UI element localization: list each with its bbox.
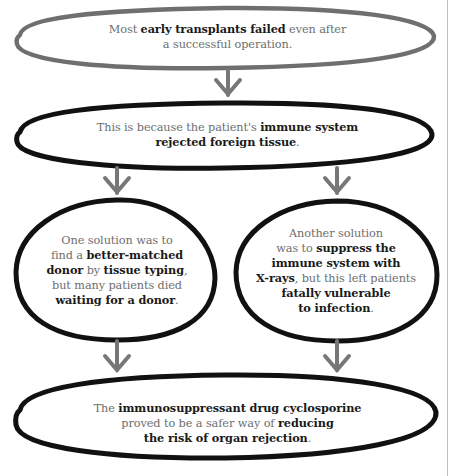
node-immune-rejection: This is because the patient's immune sys… — [40, 120, 415, 150]
text: , but this left patients — [295, 272, 416, 285]
text: . — [175, 294, 179, 307]
text: was to — [276, 242, 316, 255]
bold-text: rejected foreign tissue — [155, 135, 296, 149]
arrow-down-icon — [105, 168, 129, 193]
node-cyclosporine: The immunosuppressant drug cyclosporinep… — [40, 401, 415, 446]
node-tissue-typing: One solution was tofind a better-matched… — [22, 233, 212, 308]
text: . — [308, 432, 312, 445]
node-text-line: rejected foreign tissue. — [40, 135, 415, 150]
bold-text: early transplants failed — [141, 22, 286, 36]
bold-text: the risk of organ rejection — [144, 431, 308, 445]
node-text-line: find a better-matched — [22, 248, 212, 263]
node-text-line: One solution was to — [22, 233, 212, 248]
text: even after — [286, 23, 347, 36]
bold-text: tissue typing — [104, 263, 184, 277]
node-text-line: a successful operation. — [40, 37, 415, 52]
text: One solution was to — [61, 234, 172, 247]
text: The — [94, 402, 119, 415]
node-text-line: fatally vulnerable — [240, 286, 432, 301]
flowchart: Most early transplants failed even after… — [0, 0, 453, 476]
text: but many patients died — [52, 279, 182, 292]
bold-text: fatally vulnerable — [281, 286, 390, 300]
node-x-ray-suppression: Another solutionwas to suppress theimmun… — [240, 226, 432, 316]
page-divider — [447, 0, 448, 476]
bold-text: suppress the — [316, 241, 396, 255]
text: Most — [109, 23, 141, 36]
node-text-line: to infection. — [240, 301, 432, 316]
text: by — [83, 264, 103, 277]
node-early-transplants: Most early transplants failed even after… — [40, 22, 415, 52]
bold-text: immune system with — [272, 256, 401, 270]
bold-text: immune system — [260, 120, 358, 134]
node-text-line: Most early transplants failed even after — [40, 22, 415, 37]
bold-text: reducing — [278, 416, 334, 430]
text: This is because the patient's — [97, 121, 260, 134]
node-text-line: immune system with — [240, 256, 432, 271]
bold-text: waiting for a donor — [55, 293, 175, 307]
text: Another solution — [289, 227, 383, 240]
text: a successful operation. — [163, 38, 292, 51]
node-text-line: donor by tissue typing, — [22, 263, 212, 278]
node-text-line: but many patients died — [22, 278, 212, 293]
text: . — [296, 136, 300, 149]
text: find a — [51, 249, 87, 262]
bold-text: immunosuppressant drug cyclosporine — [118, 401, 361, 415]
bold-text: donor — [47, 263, 84, 277]
arrow-down-icon — [105, 341, 129, 370]
arrow-down-icon — [325, 168, 349, 193]
arrow-down-icon — [216, 70, 240, 95]
node-text-line: The immunosuppressant drug cyclosporine — [40, 401, 415, 416]
text: proved to be a safer way of — [121, 417, 278, 430]
bold-text: to infection — [298, 301, 370, 315]
text: , — [184, 264, 188, 277]
bold-text: X-rays — [256, 271, 295, 285]
node-text-line: proved to be a safer way of reducing — [40, 416, 415, 431]
node-text-line: Another solution — [240, 226, 432, 241]
node-text-line: X-rays, but this left patients — [240, 271, 432, 286]
node-text-line: was to suppress the — [240, 241, 432, 256]
node-text-line: the risk of organ rejection. — [40, 431, 415, 446]
node-text-line: This is because the patient's immune sys… — [40, 120, 415, 135]
arrow-down-icon — [325, 341, 349, 370]
bold-text: better-matched — [86, 248, 183, 262]
node-text-line: waiting for a donor. — [22, 293, 212, 308]
text: . — [370, 302, 374, 315]
